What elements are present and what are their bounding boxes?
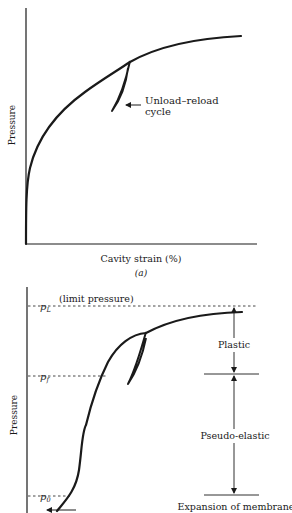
a-y-axis-label: Pressure: [7, 105, 17, 145]
b-plastic-label: Plastic: [218, 339, 250, 350]
b-p0-label: p0: [40, 491, 51, 504]
a-panel-label: (a): [135, 268, 148, 278]
b-limit-pressure-note: (limit pressure): [59, 293, 134, 304]
figure-canvas: Unload–reload cycle Pressure Cavity stra…: [0, 0, 292, 513]
a-pressure-curve: [26, 36, 241, 244]
a-x-axis-label: Cavity strain (%): [100, 253, 181, 264]
b-y-axis-label: Pressure: [9, 395, 19, 435]
a-annotation-line1: Unload–reload: [145, 95, 219, 106]
a-annotation-line2: cycle: [145, 106, 171, 117]
b-pseudo-elastic-label: Pseudo-elastic: [200, 430, 269, 441]
b-pf-label: pf: [40, 371, 50, 384]
b-expansion-note: Expansion of membrane: [178, 501, 292, 512]
figure-b: pL pf p0 (limit pressure) Pressure Plast…: [9, 287, 292, 513]
b-pL-label: pL: [40, 301, 51, 314]
b-pressure-curve: [57, 312, 242, 511]
b-unload-reload-loop: [128, 332, 146, 384]
figure-a: Unload–reload cycle Pressure Cavity stra…: [7, 8, 257, 278]
